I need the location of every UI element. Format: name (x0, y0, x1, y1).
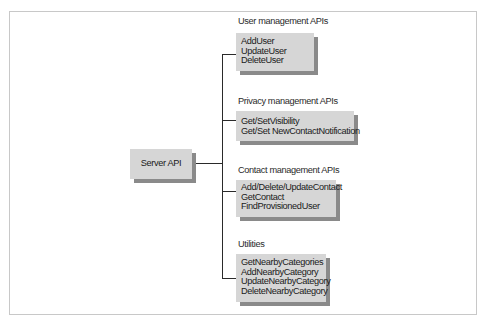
branch-privacy (222, 120, 236, 121)
user-management-node: AddUser UpdateUser DeleteUser (236, 33, 314, 71)
api-item: FindProvisionedUser (241, 202, 331, 212)
utilities-node: GetNearbyCategories AddNearbyCategory Up… (236, 254, 326, 302)
user-management-title: User management APIs (238, 16, 328, 26)
server-api-label: Server API (141, 159, 181, 169)
api-item: DeleteNearbyCategory (241, 287, 321, 297)
branch-user (222, 54, 236, 55)
utilities-title: Utilities (238, 239, 264, 249)
api-item: DeleteUser (241, 56, 309, 66)
root-connector (192, 163, 222, 164)
api-item: Get/Set NewContactNotification (241, 127, 349, 137)
server-api-node: Server API (130, 149, 192, 179)
branch-contact (222, 191, 236, 192)
contact-management-title: Contact management APIs (238, 165, 339, 175)
privacy-management-title: Privacy management APIs (238, 96, 338, 106)
privacy-management-node: Get/SetVisibility Get/Set NewContactNoti… (236, 111, 354, 141)
trunk-connector (222, 54, 223, 279)
contact-management-node: Add/Delete/UpdateContact GetContact Find… (236, 180, 336, 217)
branch-utilities (222, 278, 236, 279)
